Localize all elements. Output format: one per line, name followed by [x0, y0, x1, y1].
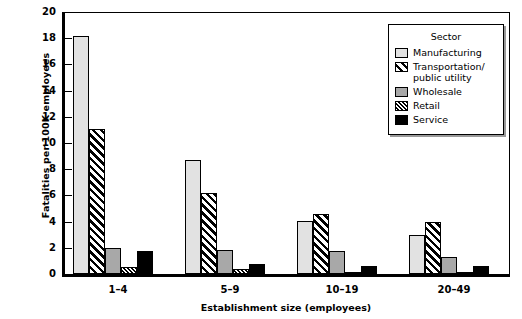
bar-wholesale [217, 250, 233, 274]
x-axis-title: Establishment size (employees) [62, 302, 510, 313]
y-tick-mark [62, 143, 72, 144]
y-tick-label: 14 [16, 86, 56, 96]
service-swatch-icon [395, 115, 408, 125]
legend-item-label: Transportation/public utility [413, 61, 485, 83]
legend: Sector ManufacturingTransportation/publi… [388, 24, 504, 135]
y-tick-mark [62, 91, 72, 92]
bar-retail [121, 267, 137, 274]
y-tick-mark [62, 195, 72, 196]
y-tick-label: 8 [16, 164, 56, 174]
legend-item-label: Service [413, 114, 448, 125]
legend-item-wholesale[interactable]: Wholesale [395, 86, 497, 97]
bar-retail [345, 272, 361, 274]
bar-manufacturing [185, 160, 201, 274]
y-tick-label: 20 [16, 7, 56, 17]
y-tick-label: 0 [16, 269, 56, 279]
x-tick-label: 20–49 [409, 284, 499, 295]
fatalities-bar-chart: Fatalities per 100K employees 0246810121… [0, 0, 522, 319]
retail-swatch-icon [395, 101, 408, 111]
y-tick-mark [62, 274, 72, 275]
bar-transportation [313, 214, 329, 274]
legend-item-service[interactable]: Service [395, 114, 497, 125]
y-tick-mark [62, 38, 72, 39]
y-tick-label: 16 [16, 59, 56, 69]
legend-item-retail[interactable]: Retail [395, 100, 497, 111]
y-tick-mark [62, 169, 72, 170]
legend-item-label: Manufacturing [413, 47, 482, 58]
y-tick-label: 18 [16, 33, 56, 43]
legend-entries: ManufacturingTransportation/public utili… [395, 47, 497, 125]
bar-retail [233, 269, 249, 274]
y-tick-mark [62, 117, 72, 118]
y-tick-label: 10 [16, 138, 56, 148]
bar-service [473, 266, 489, 275]
bar-manufacturing [409, 235, 425, 274]
y-tick-label: 2 [16, 243, 56, 253]
bar-group [185, 13, 265, 274]
y-tick-mark [62, 222, 72, 223]
bar-transportation [201, 193, 217, 274]
manufacturing-swatch-icon [395, 48, 408, 58]
bar-wholesale [329, 251, 345, 274]
legend-title: Sector [395, 31, 497, 42]
bar-retail [457, 272, 473, 274]
y-tick-label: 4 [16, 217, 56, 227]
bar-group [297, 13, 377, 274]
bar-service [249, 264, 265, 274]
y-tick-mark [62, 248, 72, 249]
bar-wholesale [105, 248, 121, 274]
bar-manufacturing [297, 221, 313, 274]
wholesale-swatch-icon [395, 87, 408, 97]
bar-wholesale [441, 257, 457, 274]
y-tick-label: 12 [16, 112, 56, 122]
transportation-swatch-icon [395, 62, 408, 72]
bar-manufacturing [73, 36, 89, 274]
bar-transportation [89, 129, 105, 274]
legend-item-label: Retail [413, 100, 440, 111]
bar-transportation [425, 222, 441, 274]
y-tick-label: 6 [16, 190, 56, 200]
x-tick-label: 5–9 [185, 284, 275, 295]
bar-service [361, 266, 377, 275]
y-tick-mark [62, 12, 72, 13]
x-tick-label: 1–4 [73, 284, 163, 295]
legend-item-manufacturing[interactable]: Manufacturing [395, 47, 497, 58]
legend-item-label: Wholesale [413, 86, 462, 97]
y-tick-mark [62, 64, 72, 65]
legend-item-transportation[interactable]: Transportation/public utility [395, 61, 497, 83]
bar-group [73, 13, 153, 274]
x-tick-label: 10–19 [297, 284, 387, 295]
bar-service [137, 251, 153, 274]
